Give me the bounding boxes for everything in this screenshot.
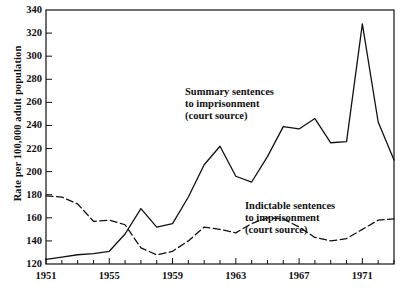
series-line-2 — [46, 196, 394, 255]
annotation-line: (court source) — [245, 224, 335, 236]
chart-container: Rate per 100,000 adult population 120140… — [0, 0, 408, 293]
x-tick-label: 1955 — [89, 270, 129, 281]
annotation-line: to imprisonment — [185, 98, 274, 110]
annotation-line: (court source) — [185, 110, 274, 122]
annotation-line: Summary sentences — [185, 86, 274, 98]
plot-border — [46, 10, 394, 264]
plot-svg — [0, 0, 408, 293]
annotation-indictable-sentences: Indictable sentencesto imprisonment(cour… — [245, 200, 335, 237]
plot-frame — [46, 10, 394, 264]
x-tick-label: 1959 — [153, 270, 193, 281]
annotation-summary-sentences: Summary sentencesto imprisonment(court s… — [185, 86, 274, 123]
annotation-line: Indictable sentences — [245, 200, 335, 212]
series-line-1 — [46, 24, 394, 260]
x-tick-label: 1967 — [279, 270, 319, 281]
x-tick-label: 1951 — [26, 270, 66, 281]
annotation-line: to imprisonment — [245, 212, 335, 224]
data-series — [46, 24, 394, 260]
x-tick-label: 1963 — [216, 270, 256, 281]
x-tick-label: 1971 — [342, 270, 382, 281]
